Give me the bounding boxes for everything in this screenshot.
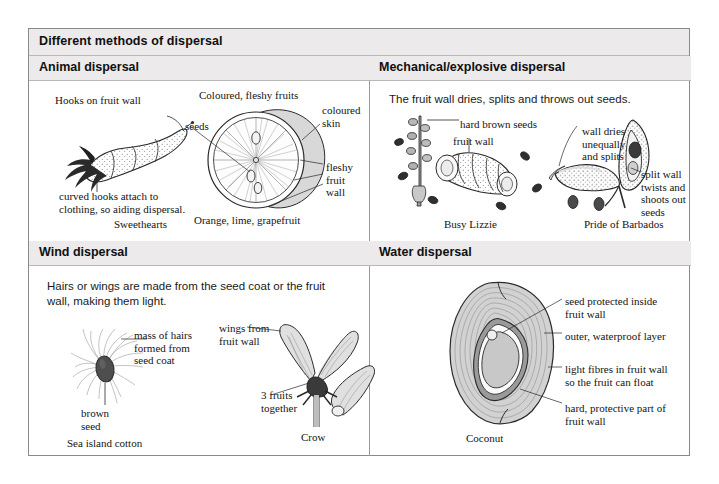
quadrant-animal-dispersal: Animal dispersal Hooks on fruit wall cur… bbox=[29, 56, 369, 241]
animal-heading-band: Animal dispersal bbox=[29, 56, 369, 81]
caption-coconut: Coconut bbox=[466, 432, 503, 444]
diagram-page: Different methods of dispersal Animal di… bbox=[28, 28, 690, 456]
quadrant-wind-dispersal: Wind dispersal Hairs or wings are made f… bbox=[29, 241, 369, 456]
water-heading: Water dispersal bbox=[379, 245, 472, 259]
crow-winged-fruit-illustration bbox=[253, 319, 378, 431]
caption-busy-lizzie: Busy Lizzie bbox=[444, 218, 497, 230]
sea-island-cotton-illustration bbox=[71, 323, 191, 415]
quadrant-water-dispersal: Water dispersal seed protected inside fr… bbox=[369, 241, 691, 456]
caption-sweethearts: Sweethearts bbox=[114, 218, 167, 230]
quadrant-mechanical-dispersal: Mechanical/explosive dispersal The fruit… bbox=[369, 56, 691, 241]
citrus-cross-section-illustration bbox=[194, 102, 344, 214]
busy-lizzie-illustration bbox=[397, 114, 547, 216]
mechanical-heading: Mechanical/explosive dispersal bbox=[379, 60, 565, 74]
mechanical-heading-band: Mechanical/explosive dispersal bbox=[369, 56, 691, 81]
wind-heading: Wind dispersal bbox=[39, 245, 128, 259]
wind-heading-band: Wind dispersal bbox=[29, 241, 369, 266]
caption-crow: Crow bbox=[301, 431, 325, 443]
coconut-cross-section-illustration bbox=[424, 277, 654, 432]
water-heading-band: Water dispersal bbox=[369, 241, 691, 266]
label-hooks-on-fruit-wall: Hooks on fruit wall bbox=[55, 94, 141, 107]
label-coloured-fleshy-fruits: Coloured, fleshy fruits bbox=[199, 89, 298, 102]
caption-sea-island-cotton: Sea island cotton bbox=[67, 437, 142, 449]
mechanical-intro: The fruit wall dries, splits and throws … bbox=[389, 92, 631, 107]
animal-heading: Animal dispersal bbox=[39, 60, 139, 74]
wind-intro: Hairs or wings are made from the seed co… bbox=[47, 279, 325, 309]
title-band: Different methods of dispersal bbox=[29, 29, 689, 56]
pride-of-barbados-illustration bbox=[555, 116, 685, 216]
caption-pride-of-barbados: Pride of Barbados bbox=[584, 218, 663, 230]
caption-orange-lime-grapefruit: Orange, lime, grapefruit bbox=[194, 214, 300, 226]
page-title: Different methods of dispersal bbox=[39, 34, 223, 48]
